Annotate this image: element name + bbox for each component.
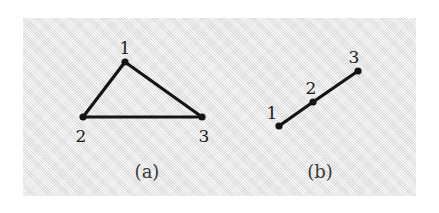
figure-background-plate <box>23 18 416 196</box>
figure-root: 123123 (a)(b) <box>0 0 439 213</box>
subfigure-caption-b: (b) <box>290 163 350 181</box>
subfigure-caption-a: (a) <box>117 163 177 181</box>
node-label-a-2: 2 <box>71 128 91 145</box>
node-label-a-1: 1 <box>115 40 135 57</box>
node-label-b-1: 1 <box>262 105 282 122</box>
node-label-b-2: 2 <box>301 80 321 97</box>
node-label-a-3: 3 <box>194 128 214 145</box>
node-label-b-3: 3 <box>344 49 364 66</box>
